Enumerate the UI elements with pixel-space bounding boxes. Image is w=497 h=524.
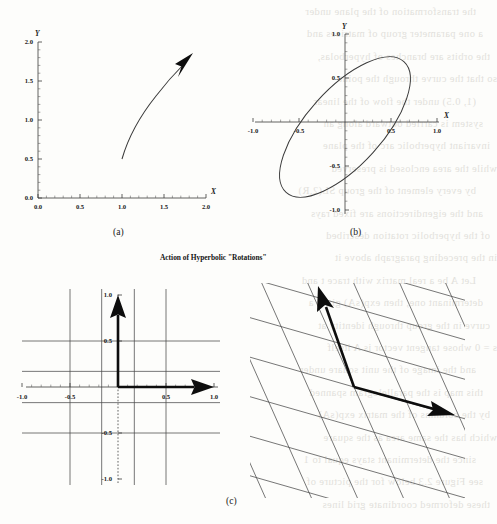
caption-a: (a) bbox=[113, 226, 124, 237]
y-tick-label: 1.0 bbox=[332, 30, 341, 37]
x-tick-label: 0.5 bbox=[76, 203, 85, 210]
x-tick-label: 0.0 bbox=[34, 203, 43, 210]
panel-b-svg: -1.0-0.50.51.01.00.5-0.5-1.0 X Y bbox=[243, 18, 458, 223]
y-tick-label: 0.5 bbox=[25, 155, 34, 162]
y-tick-label: 0.0 bbox=[25, 194, 34, 201]
panel-a-svg: 0.00.51.01.52.00.00.51.01.52.0 X Y bbox=[10, 20, 220, 220]
panel-c-left: -1.0-0.50.51.01.00.5-0.5-1.0 bbox=[18, 283, 233, 498]
x-tick-label: 1.0 bbox=[210, 393, 219, 400]
ghost-line: these deformed coordinate grid lines bbox=[20, 499, 490, 510]
x-axis-label: X bbox=[443, 111, 450, 120]
panel-c-right-svg bbox=[250, 283, 465, 498]
x-tick-label: 0.5 bbox=[387, 127, 396, 134]
y-axis-label: Y bbox=[35, 29, 41, 38]
y-tick-label: -1.0 bbox=[330, 206, 341, 213]
panel-c-left-svg: -1.0-0.50.51.01.00.5-0.5-1.0 bbox=[18, 283, 233, 498]
caption-b: (b) bbox=[350, 226, 361, 237]
ghost-line: of the hyperbolic rotation described bbox=[20, 230, 490, 241]
y-tick-label: 1.0 bbox=[104, 291, 113, 298]
x-tick-label: 0.5 bbox=[162, 393, 171, 400]
panel-c-right bbox=[250, 283, 465, 498]
x-tick-label: 1.0 bbox=[118, 203, 127, 210]
panel-b: -1.0-0.50.51.01.00.5-0.5-1.0 X Y bbox=[243, 18, 458, 223]
y-tick-label: 1.0 bbox=[25, 116, 34, 123]
ghost-line: the transformation of the plane under bbox=[6, 6, 476, 17]
y-tick-label: 1.5 bbox=[25, 77, 34, 84]
y-tick-label: 0.5 bbox=[104, 337, 113, 344]
figure-title: Action of Hyperbolic "Rotations" bbox=[160, 253, 267, 262]
x-tick-label: 1.0 bbox=[433, 127, 442, 134]
y-tick-label: -1.0 bbox=[102, 475, 113, 482]
y-tick-label: -0.5 bbox=[102, 429, 113, 436]
x-tick-label: -1.0 bbox=[248, 127, 259, 134]
x-tick-label: 2.0 bbox=[202, 203, 211, 210]
orbit-arrowhead-icon bbox=[175, 53, 193, 77]
x-axis-label: X bbox=[210, 187, 217, 196]
x-tick-label: -0.5 bbox=[65, 393, 76, 400]
grid-line-shallow bbox=[0, 518, 497, 524]
grid-line-steep bbox=[454, 0, 497, 524]
y-tick-label: 2.0 bbox=[25, 38, 34, 45]
hyperbolic-orbit-curve bbox=[122, 64, 184, 159]
e2-arrowhead-icon bbox=[110, 295, 126, 318]
caption-c: (c) bbox=[226, 495, 237, 506]
image-vector-1 bbox=[354, 387, 434, 409]
x-tick-label: 1.5 bbox=[160, 203, 169, 210]
x-tick-label: -1.0 bbox=[17, 393, 28, 400]
y-tick-label: -0.5 bbox=[330, 162, 341, 169]
image-vector-2 bbox=[326, 307, 354, 387]
y-axis-label: Y bbox=[342, 22, 348, 31]
panel-a: 0.00.51.01.52.00.00.51.01.52.0 X Y bbox=[10, 20, 220, 220]
